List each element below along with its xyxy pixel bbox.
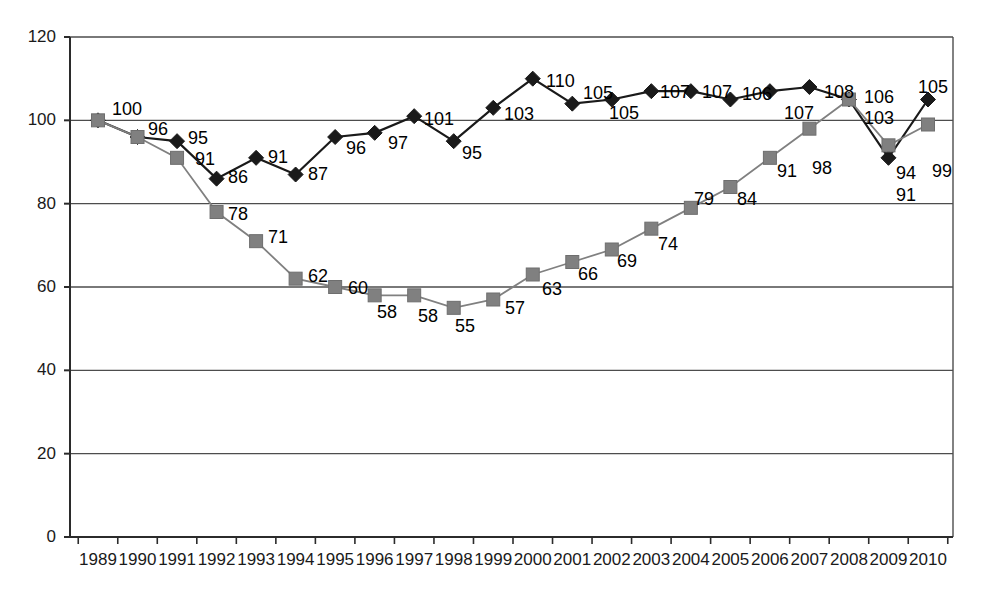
marker-square-2003 (645, 222, 658, 235)
marker-square-1990 (131, 131, 144, 144)
data-point-label: 95 (462, 144, 482, 162)
marker-square-1993 (250, 235, 263, 248)
marker-square-1999 (487, 293, 500, 306)
data-point-label: 79 (694, 190, 714, 208)
data-point-label: 101 (424, 110, 454, 128)
x-axis-label-2010: 2010 (898, 551, 958, 568)
chart-container: 1009695918678917187629660975810158955510… (0, 0, 1002, 593)
marker-square-1995 (329, 281, 342, 294)
data-point-label: 91 (268, 148, 288, 166)
data-point-label: 91 (896, 186, 916, 204)
marker-square-2010 (922, 118, 935, 131)
marker-diamond-2009 (881, 150, 896, 165)
marker-square-1994 (289, 272, 302, 285)
marker-diamond-1993 (249, 150, 264, 165)
marker-square-1989 (92, 114, 105, 127)
data-point-label: 96 (148, 120, 168, 138)
marker-diamond-1997 (407, 109, 422, 124)
data-point-label: 96 (346, 139, 366, 157)
data-point-label: 87 (308, 165, 328, 183)
data-point-label: 106 (864, 88, 894, 106)
marker-square-1996 (368, 289, 381, 302)
marker-square-2007 (803, 122, 816, 135)
data-point-label: 86 (228, 168, 248, 186)
marker-diamond-2000 (525, 71, 540, 86)
data-point-label: 103 (864, 109, 894, 127)
data-point-label: 95 (188, 129, 208, 147)
y-axis-label-20: 20 (0, 445, 56, 462)
data-point-label: 63 (542, 280, 562, 298)
y-axis-label-100: 100 (0, 111, 56, 128)
data-point-label: 58 (377, 303, 397, 321)
data-point-label: 74 (658, 235, 678, 253)
marker-diamond-1996 (367, 125, 382, 140)
data-point-label: 71 (268, 228, 288, 246)
data-point-label: 110 (546, 72, 575, 90)
data-point-label: 107 (784, 104, 814, 122)
data-point-label: 99 (932, 162, 952, 180)
marker-diamond-2007 (802, 80, 817, 95)
data-point-label: 57 (505, 299, 525, 317)
data-point-label: 94 (896, 164, 916, 182)
data-point-label: 105 (609, 104, 639, 122)
data-point-label: 78 (228, 205, 248, 223)
marker-square-2009 (882, 139, 895, 152)
data-point-label: 62 (308, 267, 328, 285)
y-axis-label-120: 120 (0, 28, 56, 45)
data-point-label: 100 (112, 100, 142, 118)
marker-square-2000 (526, 268, 539, 281)
y-axis-label-80: 80 (0, 195, 56, 212)
data-point-label: 106 (742, 85, 772, 103)
data-point-label: 97 (388, 134, 408, 152)
marker-square-1998 (447, 301, 460, 314)
data-point-label: 91 (777, 162, 797, 180)
y-axis-label-40: 40 (0, 361, 56, 378)
data-point-label: 105 (918, 78, 948, 96)
marker-diamond-2003 (644, 84, 659, 99)
data-point-label: 60 (348, 279, 368, 297)
marker-square-2001 (566, 256, 579, 269)
data-point-label: 69 (617, 252, 637, 270)
marker-square-1997 (408, 289, 421, 302)
data-point-label: 55 (455, 317, 475, 335)
data-point-label: 66 (578, 265, 598, 283)
marker-diamond-2001 (565, 96, 580, 111)
marker-square-1992 (210, 206, 223, 219)
marker-square-2005 (724, 181, 737, 194)
marker-square-2006 (763, 151, 776, 164)
y-axis-label-60: 60 (0, 278, 56, 295)
data-point-label: 103 (504, 105, 534, 123)
data-point-label: 107 (702, 83, 732, 101)
data-point-label: 105 (583, 84, 613, 102)
data-point-label: 91 (195, 150, 215, 168)
marker-square-1991 (171, 151, 184, 164)
y-axis-label-0: 0 (0, 528, 56, 545)
data-point-label: 58 (418, 307, 438, 325)
data-point-label: 107 (660, 83, 690, 101)
data-point-label: 84 (737, 190, 757, 208)
data-point-label: 98 (812, 159, 832, 177)
data-point-label: 108 (824, 83, 854, 101)
